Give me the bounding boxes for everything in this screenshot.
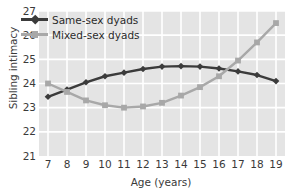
data-point-marker: [159, 63, 166, 70]
data-point-marker: [121, 105, 127, 111]
legend-label-same-sex-dyads: Same-sex dyads: [48, 14, 138, 26]
data-point-marker: [178, 63, 185, 70]
data-point-marker: [216, 73, 222, 79]
data-point-marker: [140, 104, 146, 110]
data-point-marker: [197, 63, 204, 70]
legend-swatch-mixed-sex-dyads: [21, 27, 48, 42]
data-point-marker: [45, 93, 52, 100]
data-point-marker: [83, 79, 90, 86]
legend-item-mixed-sex-dyads: Mixed-sex dyads: [21, 27, 151, 42]
x-axis-tick-labels: 78910111213141516171819: [0, 159, 293, 173]
data-point-marker: [102, 102, 108, 108]
data-point-marker: [83, 98, 89, 104]
data-point-marker: [216, 65, 223, 72]
data-point-marker: [121, 69, 128, 76]
x-axis-tick-label: 19: [264, 159, 288, 170]
data-point-marker: [235, 68, 242, 75]
y-axis-tick-label: 22: [14, 126, 36, 137]
legend-item-same-sex-dyads: Same-sex dyads: [21, 12, 151, 27]
data-point-marker: [64, 89, 70, 95]
y-axis-tick-label: 24: [14, 78, 36, 89]
data-point-marker: [254, 72, 261, 79]
data-point-marker: [235, 58, 241, 64]
data-point-marker: [102, 73, 109, 80]
data-point-marker: [140, 66, 147, 73]
data-point-marker: [159, 100, 165, 106]
data-point-marker: [45, 81, 51, 87]
legend-label-mixed-sex-dyads: Mixed-sex dyads: [48, 29, 140, 41]
x-axis-title: Age (years): [36, 176, 286, 188]
y-axis-tick-label: 25: [14, 54, 36, 65]
y-axis-tick-label: 23: [14, 102, 36, 113]
data-point-marker: [197, 84, 203, 90]
legend-swatch-same-sex-dyads: [21, 12, 48, 27]
chart-figure: Sibling intimacy 21222324252627 78910111…: [0, 0, 293, 194]
chart-legend: Same-sex dyads Mixed-sex dyads: [21, 12, 151, 42]
data-point-marker: [178, 93, 184, 99]
data-point-marker: [273, 20, 279, 26]
data-point-marker: [254, 40, 260, 46]
